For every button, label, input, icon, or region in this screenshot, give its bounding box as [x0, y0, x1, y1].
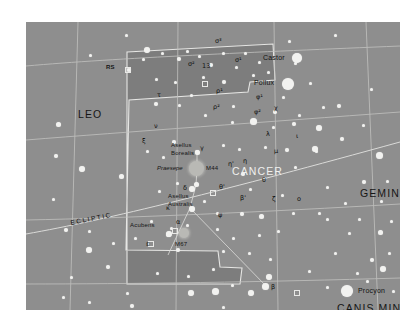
star	[294, 166, 297, 169]
star	[222, 80, 226, 84]
star	[70, 276, 73, 279]
star-chart-frame: CANCER LEO GEMINI CANIS MINOR Castor Pol…	[26, 22, 400, 310]
star	[79, 166, 85, 172]
bayer-label: ξ	[142, 138, 146, 145]
star	[380, 266, 386, 272]
bayer-label: κ	[166, 205, 170, 212]
star	[298, 114, 301, 117]
star	[89, 54, 92, 57]
star	[62, 296, 65, 299]
star	[119, 174, 124, 179]
bayer-label: ν	[154, 123, 158, 130]
star	[264, 146, 267, 149]
star	[370, 258, 374, 262]
star	[370, 88, 373, 91]
bayer-label: ζ	[272, 196, 276, 203]
star	[380, 200, 383, 203]
star	[288, 40, 291, 43]
bayer-label: 13	[202, 63, 210, 70]
star	[222, 144, 225, 147]
star	[190, 94, 193, 97]
star	[240, 212, 244, 216]
bayer-label: φ¹	[256, 94, 263, 101]
variable-star-marker	[125, 67, 131, 73]
star	[188, 290, 194, 296]
star	[88, 230, 91, 233]
bayer-label: φ²	[254, 109, 261, 116]
star	[202, 76, 205, 79]
star	[177, 57, 181, 61]
star	[134, 237, 137, 240]
star-label-pollux: Pollux	[254, 79, 274, 86]
constellation-label-leo: LEO	[78, 109, 102, 120]
star	[130, 304, 134, 308]
star	[326, 186, 329, 189]
bayer-label: β	[271, 284, 275, 291]
star	[64, 228, 68, 232]
star	[269, 258, 272, 261]
bayer-label: σ³	[215, 38, 222, 45]
star-beta-cancri	[262, 283, 269, 290]
cluster-m67	[179, 228, 189, 238]
star	[376, 152, 383, 159]
star	[142, 58, 145, 61]
star	[248, 252, 251, 255]
star	[126, 292, 129, 295]
sky-background: CANCER LEO GEMINI CANIS MINOR Castor Pol…	[26, 22, 400, 310]
star	[244, 52, 247, 55]
star	[390, 220, 393, 223]
star	[198, 55, 201, 58]
star	[362, 180, 366, 184]
cluster-m44-praesepe	[189, 161, 204, 176]
star	[146, 150, 149, 153]
star	[216, 228, 219, 231]
bayer-label: μ	[274, 148, 278, 155]
star-label-asellus-australis: Asellus Australis	[168, 192, 208, 208]
star	[204, 114, 207, 117]
star	[318, 212, 321, 215]
bayer-label: ι	[296, 133, 298, 140]
bayer-label: ψ	[218, 212, 222, 219]
bayer-label: σ²	[188, 61, 195, 68]
star	[356, 272, 359, 275]
star	[186, 224, 189, 227]
star	[52, 198, 55, 201]
star	[212, 268, 215, 271]
star	[162, 156, 165, 159]
star	[88, 301, 91, 304]
star	[176, 248, 180, 252]
constellation-label-canis-minor: CANIS MINOR	[337, 303, 400, 310]
star	[222, 306, 225, 309]
star	[231, 121, 234, 124]
star	[125, 34, 128, 37]
variable-star-marker	[294, 290, 300, 296]
bayer-label: θ	[262, 177, 266, 184]
star	[222, 52, 225, 55]
star	[258, 234, 261, 237]
constellation-label-cancer: CANCER	[232, 166, 283, 177]
object-label-praesepe: Praesepe	[157, 165, 183, 171]
star	[392, 290, 395, 293]
star	[267, 71, 270, 74]
star	[174, 81, 177, 84]
star	[312, 146, 318, 152]
star	[266, 274, 272, 280]
bayer-label: ρ¹	[216, 88, 223, 95]
bayer-label: ο	[297, 196, 301, 203]
star	[194, 182, 199, 187]
star	[322, 106, 325, 109]
star	[178, 104, 181, 107]
star	[235, 66, 238, 69]
star-pollux	[282, 78, 294, 90]
star	[386, 180, 389, 183]
star	[358, 218, 361, 221]
bayer-label: η	[243, 158, 247, 165]
star	[176, 182, 179, 185]
star	[316, 125, 322, 131]
bayer-label: χ	[274, 105, 278, 112]
star	[252, 74, 255, 77]
bayer-label: β'	[240, 195, 246, 202]
star-label-acubens: Acubens	[130, 222, 155, 228]
star	[212, 288, 219, 295]
star	[309, 82, 312, 85]
